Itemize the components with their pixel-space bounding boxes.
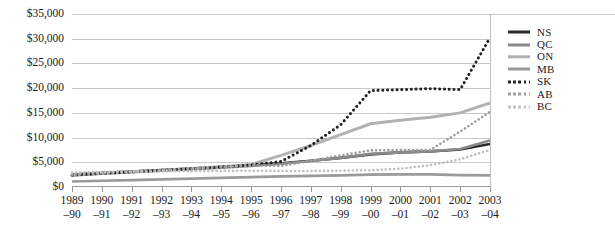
- plot-area: [72, 14, 490, 187]
- legend-label: BC: [537, 101, 552, 112]
- y-tick-label: $0: [53, 181, 65, 193]
- x-tick-label-year: 1995: [240, 194, 263, 206]
- x-axis-tick: [191, 187, 192, 192]
- x-axis-tick: [371, 187, 372, 192]
- x-tick-label-yearend: –99: [329, 208, 352, 222]
- y-tick-label: $35,000: [27, 8, 64, 20]
- x-tick-label: 2002–03: [449, 194, 472, 221]
- legend-label: SK: [537, 76, 551, 87]
- x-tick-label-year: 1998: [329, 194, 352, 206]
- legend-swatch-ns-icon: [508, 27, 530, 38]
- legend-label: MB: [537, 64, 555, 75]
- x-tick-label: 1999–00: [359, 194, 382, 221]
- y-tick-label: $15,000: [27, 107, 64, 119]
- chart-legend: NSQCONMBSKABBC: [508, 26, 608, 113]
- legend-item-sk[interactable]: SK: [508, 76, 608, 88]
- x-axis-labels: 1989–901990–911991–921992–931993–941994–…: [0, 194, 615, 239]
- x-tick-label-year: 1997: [299, 194, 322, 206]
- x-axis-tick: [430, 187, 431, 192]
- x-axis-tick: [400, 187, 401, 192]
- legend-swatch-qc-icon: [508, 39, 530, 50]
- x-tick-label-yearend: –90: [61, 208, 84, 222]
- x-tick-label-year: 2003: [479, 194, 502, 206]
- chart-container: $0$5,000$10,000$15,000$20,000$25,000$30,…: [0, 0, 615, 239]
- x-tick-label-yearend: –03: [449, 208, 472, 222]
- x-tick-label: 2001–02: [419, 194, 442, 221]
- x-tick-label-year: 2002: [449, 194, 472, 206]
- x-tick-label: 1996–97: [270, 194, 293, 221]
- x-tick-label-yearend: –92: [120, 208, 143, 222]
- legend-item-mb[interactable]: MB: [508, 63, 608, 75]
- x-axis-tick: [490, 187, 491, 192]
- x-tick-label-year: 1996: [270, 194, 293, 206]
- legend-swatch-sk-icon: [508, 76, 530, 87]
- x-axis-tick: [281, 187, 282, 192]
- x-tick-label: 1995–96: [240, 194, 263, 221]
- x-tick-label-yearend: –97: [270, 208, 293, 222]
- legend-label: NS: [537, 27, 551, 38]
- legend-label: AB: [537, 89, 553, 100]
- x-tick-label: 1998–99: [329, 194, 352, 221]
- x-tick-label-year: 2001: [419, 194, 442, 206]
- legend-divider: [490, 14, 491, 187]
- x-axis-tick: [251, 187, 252, 192]
- x-tick-label-year: 1999: [359, 194, 382, 206]
- x-tick-label-yearend: –94: [180, 208, 203, 222]
- x-tick-label-yearend: –91: [90, 208, 113, 222]
- legend-item-ns[interactable]: NS: [508, 26, 608, 38]
- x-axis-tick: [132, 187, 133, 192]
- x-tick-label: 1989–90: [61, 194, 84, 221]
- x-tick-label: 2000–01: [389, 194, 412, 221]
- series-line-mb: [72, 174, 490, 181]
- x-tick-label-year: 2000: [389, 194, 412, 206]
- x-axis-tick: [162, 187, 163, 192]
- legend-item-on[interactable]: ON: [508, 51, 608, 63]
- legend-swatch-on-icon: [508, 51, 530, 62]
- x-tick-label: 1994–95: [210, 194, 233, 221]
- x-tick-label: 2003–04: [479, 194, 502, 221]
- x-axis-ticks: [72, 187, 490, 192]
- x-tick-label-year: 1990: [90, 194, 113, 206]
- x-tick-label-yearend: –95: [210, 208, 233, 222]
- x-tick-label: 1997–98: [299, 194, 322, 221]
- x-tick-label-year: 1992: [150, 194, 173, 206]
- y-tick-label: $5,000: [32, 157, 64, 169]
- y-tick-label: $30,000: [27, 33, 64, 45]
- legend-item-ab[interactable]: AB: [508, 88, 608, 100]
- x-axis-tick: [221, 187, 222, 192]
- legend-swatch-ab-icon: [508, 89, 530, 100]
- x-tick-label: 1991–92: [120, 194, 143, 221]
- x-tick-label-yearend: –93: [150, 208, 173, 222]
- legend-item-bc[interactable]: BC: [508, 100, 608, 112]
- top-gridline-extension: [490, 14, 615, 15]
- x-tick-label-yearend: –98: [299, 208, 322, 222]
- y-tick-label: $10,000: [27, 132, 64, 144]
- x-tick-label-year: 1994: [210, 194, 233, 206]
- x-axis-tick: [341, 187, 342, 192]
- x-tick-label: 1993–94: [180, 194, 203, 221]
- x-tick-label-yearend: –04: [479, 208, 502, 222]
- x-tick-label: 1990–91: [90, 194, 113, 221]
- x-tick-label-yearend: –00: [359, 208, 382, 222]
- x-tick-label-year: 1993: [180, 194, 203, 206]
- x-axis-tick: [311, 187, 312, 192]
- legend-swatch-mb-icon: [508, 64, 530, 75]
- y-tick-label: $25,000: [27, 58, 64, 70]
- series-lines: [72, 14, 490, 187]
- x-axis-tick: [72, 187, 73, 192]
- x-tick-label-yearend: –96: [240, 208, 263, 222]
- x-tick-label: 1992–93: [150, 194, 173, 221]
- x-tick-label-yearend: –02: [419, 208, 442, 222]
- x-tick-label-yearend: –01: [389, 208, 412, 222]
- legend-label: QC: [537, 39, 553, 50]
- legend-swatch-bc-icon: [508, 101, 530, 112]
- x-axis-tick: [460, 187, 461, 192]
- x-axis-tick: [102, 187, 103, 192]
- y-tick-label: $20,000: [27, 82, 64, 94]
- x-tick-label-year: 1991: [120, 194, 143, 206]
- legend-label: ON: [537, 51, 553, 62]
- legend-item-qc[interactable]: QC: [508, 38, 608, 50]
- x-tick-label-year: 1989: [61, 194, 84, 206]
